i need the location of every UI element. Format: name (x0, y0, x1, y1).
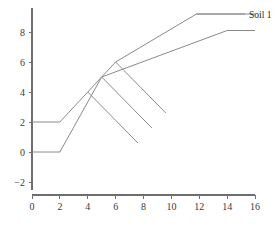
descending-stroke-3 (116, 62, 166, 113)
series-line-1 (32, 14, 255, 122)
descending-stroke-2 (102, 77, 152, 128)
x-tick-label-10: 10 (166, 201, 176, 212)
descending-stroke-1 (88, 92, 138, 143)
y-tick-label-6: 6 (20, 57, 25, 68)
x-tick-label-12: 12 (194, 201, 204, 212)
x-tick-label-14: 14 (222, 201, 232, 212)
data-series-lines (32, 14, 255, 152)
x-axis-tick-labels: 0246810121416 (30, 201, 261, 212)
x-tick-label-0: 0 (30, 201, 35, 212)
y-tick-label--2: −2 (14, 177, 25, 188)
annotation-strokes (88, 62, 166, 143)
y-tick-label-8: 8 (20, 27, 25, 38)
series-label-soil-1: Soil 1 (249, 10, 272, 20)
series-line-2 (32, 31, 255, 153)
x-tick-label-8: 8 (141, 201, 146, 212)
x-tick-label-16: 16 (250, 201, 260, 212)
chart-container: −202468 0246810121416 Soil 1 (0, 0, 276, 225)
y-axis-tick-labels: −202468 (14, 27, 25, 188)
x-tick-label-6: 6 (113, 201, 118, 212)
y-tick-label-0: 0 (20, 147, 25, 158)
y-tick-label-4: 4 (20, 87, 25, 98)
x-axis-ticks (32, 195, 255, 199)
x-tick-label-4: 4 (85, 201, 90, 212)
x-tick-label-2: 2 (57, 201, 62, 212)
series-label-group: Soil 1 (196, 10, 271, 20)
y-tick-label-2: 2 (20, 117, 25, 128)
line-chart: −202468 0246810121416 Soil 1 (0, 0, 276, 225)
